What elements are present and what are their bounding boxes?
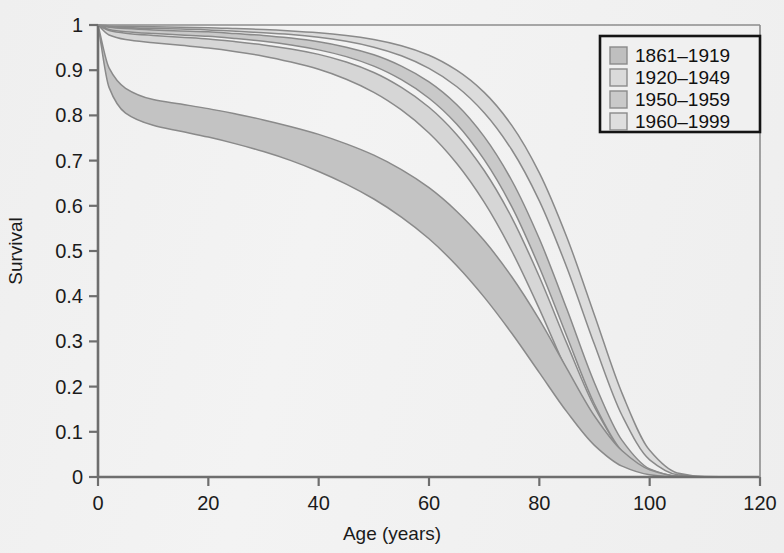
chart-legend: 1861–19191920–19491950–19591960–1999 xyxy=(600,36,760,132)
y-tick-label: 0.9 xyxy=(55,59,83,81)
y-tick-label: 0.5 xyxy=(55,240,83,262)
x-tick-label: 0 xyxy=(92,492,103,514)
y-tick-label: 0.7 xyxy=(55,150,83,172)
y-tick-label: 0.3 xyxy=(55,330,83,352)
legend-label-1920–1949: 1920–1949 xyxy=(635,67,730,88)
x-tick-label: 100 xyxy=(633,492,666,514)
y-tick-label: 0.1 xyxy=(55,421,83,443)
x-axis-ticks: 020406080100120 xyxy=(92,477,776,514)
legend-swatch-1950–1959 xyxy=(610,91,627,108)
y-axis-ticks: 00.10.20.30.40.50.60.70.80.91 xyxy=(55,14,98,488)
x-axis-title: Age (years) xyxy=(343,523,441,544)
y-tick-label: 0 xyxy=(72,466,83,488)
x-tick-label: 80 xyxy=(528,492,550,514)
x-tick-label: 40 xyxy=(308,492,330,514)
legend-swatch-1861–1919 xyxy=(610,47,627,64)
legend-label-1960–1999: 1960–1999 xyxy=(635,111,730,132)
legend-label-1861–1919: 1861–1919 xyxy=(635,45,730,66)
y-tick-label: 1 xyxy=(72,14,83,36)
y-tick-label: 0.2 xyxy=(55,376,83,398)
legend-label-1950–1959: 1950–1959 xyxy=(635,89,730,110)
x-tick-label: 20 xyxy=(197,492,219,514)
y-tick-label: 0.4 xyxy=(55,285,83,307)
y-tick-label: 0.6 xyxy=(55,195,83,217)
legend-swatch-1960–1999 xyxy=(610,113,627,130)
legend-swatch-1920–1949 xyxy=(610,69,627,86)
x-tick-label: 120 xyxy=(743,492,776,514)
y-tick-label: 0.8 xyxy=(55,104,83,126)
y-axis-title: Survival xyxy=(5,217,26,285)
x-tick-label: 60 xyxy=(418,492,440,514)
figure-canvas: 020406080100120 00.10.20.30.40.50.60.70.… xyxy=(0,0,784,553)
survival-curve-chart: 020406080100120 00.10.20.30.40.50.60.70.… xyxy=(0,0,784,553)
